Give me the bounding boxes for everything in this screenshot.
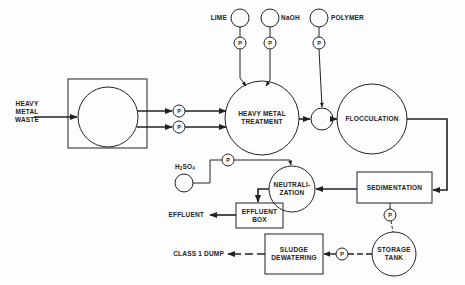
- pump-icon: P: [313, 37, 325, 49]
- lime-label: LIME: [203, 14, 227, 22]
- h2so4-label: H2SO4: [170, 163, 200, 173]
- pump-icon: P: [336, 248, 348, 260]
- pump-icon: P: [264, 37, 276, 49]
- naoh-tank: [261, 9, 279, 27]
- h2so4-tank: [175, 174, 193, 192]
- diagram-graphics: [0, 0, 465, 285]
- storage-tank-label: STORAGE TANK: [372, 246, 416, 262]
- class1-dump-label: CLASS 1 DUMP: [168, 250, 224, 258]
- equalization-tank-box: [68, 79, 147, 148]
- sedimentation-label: SEDIMENTATION: [357, 184, 432, 192]
- pump-icon: P: [384, 209, 396, 221]
- mixer-circle: [311, 108, 333, 130]
- flocculation-label: FLOCCULATION: [342, 115, 402, 123]
- equalization-tank-circle: [78, 87, 138, 147]
- pump-icon: P: [173, 121, 185, 133]
- heavy-metal-treatment-label: HEAVY METAL TREATMENT: [230, 110, 294, 126]
- polymer-label: POLYMER: [331, 14, 371, 22]
- effluent-box-label: EFFLUENT BOX: [236, 208, 283, 224]
- pump-icon: P: [234, 37, 246, 49]
- sludge-dewatering-label: SLUDGE DEWATERING: [265, 246, 323, 262]
- naoh-label: NaOH: [281, 14, 305, 22]
- polymer-tank: [310, 9, 328, 27]
- heavy-metal-waste-label: HEAVY METAL WASTE: [6, 100, 48, 124]
- pump-icon: P: [173, 105, 185, 117]
- effluent-output-label: EFFLUENT: [160, 211, 204, 219]
- process-flow-diagram: HEAVY METAL WASTE LIME NaOH POLYMER H2SO…: [0, 0, 465, 285]
- lime-tank: [231, 9, 249, 27]
- neutralization-label: NEUTRALI- ZATION: [272, 181, 312, 197]
- pump-icon: P: [222, 154, 234, 166]
